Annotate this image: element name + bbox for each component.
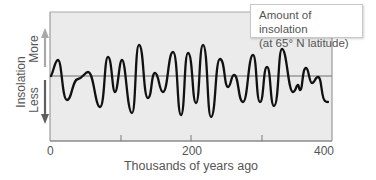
x-axis-title: Thousands of years ago (0, 159, 376, 173)
legend-line-2: (at 65° N latitude) (259, 36, 362, 50)
legend: Amount of insolation (at 65° N latitude) (250, 4, 363, 38)
x-tick-label-400: 400 (314, 144, 334, 158)
y-axis-title: Insolation (14, 52, 28, 112)
less-label: Less (27, 85, 41, 115)
more-label: More (27, 34, 41, 64)
legend-line-1: Amount of insolation (259, 8, 362, 36)
x-tick-label-200: 200 (182, 144, 202, 158)
more-arrow-icon (41, 28, 49, 67)
less-arrow-icon (41, 80, 49, 124)
x-tick-label-0: 0 (47, 144, 54, 158)
